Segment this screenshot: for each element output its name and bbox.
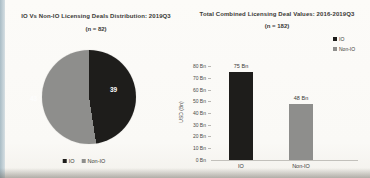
- y-tick-0: 0 Bn: [180, 157, 206, 163]
- pie-legend: IO Non-IO: [63, 158, 106, 164]
- bar-legend-label-non-io: Non-IO: [339, 46, 355, 52]
- io-swatch-icon: [63, 159, 67, 163]
- left-edge-strip: [0, 0, 5, 178]
- y-tickmark: [208, 78, 211, 79]
- bottom-shadow: [0, 168, 370, 178]
- pie-chart-subtitle: (n = 82): [85, 26, 106, 32]
- y-tick-60: 60 Bn: [180, 87, 206, 93]
- pie-legend-label-io: IO: [69, 158, 75, 164]
- y-tick-40: 40 Bn: [180, 110, 206, 116]
- non-io-swatch-icon: [333, 47, 337, 51]
- bar-legend-item-io: IO: [333, 36, 355, 42]
- pie-graphic: [42, 50, 136, 144]
- y-tickmark: [208, 101, 211, 102]
- bar-legend-label-io: IO: [339, 36, 344, 42]
- bar: [229, 72, 253, 160]
- y-tick-10: 10 Bn: [180, 145, 206, 151]
- y-tickmark: [208, 136, 211, 137]
- pie-data-label-non-io: 43: [30, 95, 37, 102]
- pie-legend-item-io: IO: [63, 158, 75, 164]
- bar-legend: IO Non-IO: [333, 36, 355, 52]
- bar-chart-title: Total Combined Licensing Deal Values: 20…: [200, 11, 355, 17]
- x-axis-line: [211, 160, 358, 161]
- non-io-swatch-icon: [82, 159, 86, 163]
- y-tickmark: [208, 148, 211, 149]
- y-tickmark: [208, 113, 211, 114]
- bar-chart-subtitle: (n = 182): [265, 23, 290, 29]
- pie-chart-title: IO Vs Non-IO Licensing Deals Distributio…: [21, 13, 171, 19]
- y-tick-70: 70 Bn: [180, 75, 206, 81]
- pie-legend-item-non-io: Non-IO: [82, 158, 106, 164]
- bar-data-label-non-io: 48 Bn: [294, 95, 308, 101]
- y-tick-80: 80 Bn: [180, 63, 206, 69]
- bar-data-label-io: 75 Bn: [234, 63, 248, 69]
- y-tickmark: [208, 66, 211, 67]
- bar-legend-item-non-io: Non-IO: [333, 46, 355, 52]
- y-tickmark: [208, 125, 211, 126]
- y-tick-50: 50 Bn: [180, 98, 206, 104]
- pie-legend-label-non-io: Non-IO: [88, 158, 106, 164]
- y-tickmark: [208, 90, 211, 91]
- y-tick-20: 20 Bn: [180, 133, 206, 139]
- bar: [289, 104, 313, 160]
- slide-canvas: IO Vs Non-IO Licensing Deals Distributio…: [0, 0, 370, 178]
- io-swatch-icon: [333, 37, 337, 41]
- y-tick-30: 30 Bn: [180, 122, 206, 128]
- pie-data-label-io: 39: [110, 86, 117, 93]
